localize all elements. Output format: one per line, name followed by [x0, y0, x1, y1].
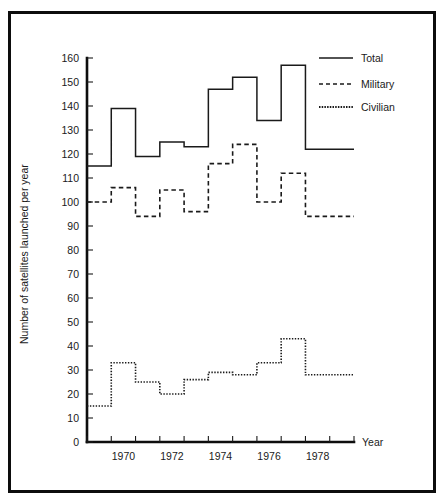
y-tick-label-90: 90 — [67, 220, 79, 232]
y-tick-label-10: 10 — [67, 412, 79, 424]
series-line-civilian — [87, 339, 354, 406]
x-tick-label-1974: 1974 — [209, 450, 233, 462]
y-tick-label-20: 20 — [67, 388, 79, 400]
y-tick-label-30: 30 — [67, 364, 79, 376]
figure-border: 0102030405060708090100110120130140150160… — [8, 11, 436, 493]
y-tick-label-100: 100 — [61, 196, 79, 208]
series-line-total — [87, 65, 354, 166]
y-axis-title: Number of satellites launched per year — [18, 164, 30, 344]
y-tick-label-130: 130 — [61, 124, 79, 136]
y-tick-label-40: 40 — [67, 340, 79, 352]
chart-legend: Total Military Civilian — [319, 52, 395, 113]
y-tick-label-150: 150 — [61, 76, 79, 88]
x-axis-tick-labels: 19701972197419761978 — [112, 450, 330, 462]
y-tick-label-60: 60 — [67, 292, 79, 304]
x-axis-title: Year — [362, 436, 384, 448]
y-tick-label-140: 140 — [61, 100, 79, 112]
satellite-launch-step-chart: 0102030405060708090100110120130140150160… — [11, 14, 433, 490]
x-tick-label-1976: 1976 — [257, 450, 281, 462]
y-tick-label-70: 70 — [67, 268, 79, 280]
y-tick-label-80: 80 — [67, 244, 79, 256]
legend-label-military: Military — [361, 78, 395, 90]
y-tick-label-160: 160 — [61, 52, 79, 64]
legend-label-civilian: Civilian — [361, 101, 395, 113]
x-tick-label-1972: 1972 — [160, 450, 184, 462]
x-tick-label-1978: 1978 — [306, 450, 330, 462]
y-tick-label-50: 50 — [67, 316, 79, 328]
y-tick-label-120: 120 — [61, 148, 79, 160]
legend-label-total: Total — [361, 52, 383, 64]
y-tick-label-110: 110 — [62, 172, 79, 184]
x-tick-label-1970: 1970 — [112, 450, 136, 462]
series-line-military — [87, 144, 354, 216]
y-axis-tick-labels: 0102030405060708090100110120130140150160 — [61, 52, 79, 448]
y-tick-label-0: 0 — [73, 436, 79, 448]
